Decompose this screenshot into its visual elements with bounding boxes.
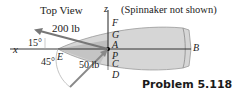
point-f-label: F bbox=[112, 18, 118, 28]
point-e-label: E bbox=[57, 52, 63, 62]
angle-45-label: 45° bbox=[41, 57, 55, 67]
point-c-label: C bbox=[112, 59, 119, 69]
diagram-figure: Top View 200 lb 15° x z (Spinnaker not s… bbox=[0, 0, 244, 97]
force-50-label: 50 lb bbox=[79, 60, 99, 70]
angle-15-label: 15° bbox=[28, 38, 42, 48]
view-title: Top View bbox=[40, 5, 83, 16]
spinnaker-note: (Spinnaker not shown) bbox=[121, 5, 217, 16]
point-a-label: A bbox=[112, 40, 118, 50]
z-axis-label: z bbox=[104, 4, 108, 14]
point-b-label: B bbox=[193, 43, 199, 53]
force-200-label: 200 lb bbox=[52, 23, 80, 34]
point-d-label: D bbox=[112, 70, 119, 80]
x-axis-label: x bbox=[13, 44, 18, 55]
problem-caption: Problem 5.118 bbox=[142, 79, 232, 90]
